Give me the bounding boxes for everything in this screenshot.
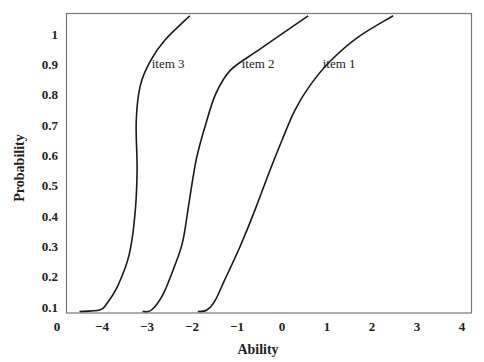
x-tick-label: −4 [95, 319, 109, 334]
curve-label-item-1: item 1 [323, 56, 356, 71]
curve-label-item-2: item 2 [242, 56, 275, 71]
y-tick-label: 0.8 [42, 87, 59, 102]
y-tick-label: 0.9 [42, 57, 59, 72]
x-tick-label: 0 [279, 319, 286, 334]
x-tick-label: −3 [140, 319, 154, 334]
x-tick-label: 4 [459, 319, 466, 334]
x-tick-label: 1 [324, 319, 331, 334]
x-tick-label: 2 [369, 319, 376, 334]
curve-labels: item 3item 2item 1 [152, 56, 356, 71]
x-axis-title: Ability [237, 342, 278, 357]
y-tick-label: 0.5 [42, 178, 59, 193]
curve-item-1 [198, 16, 393, 312]
y-tick-label: 0.6 [42, 148, 59, 163]
item-characteristic-curves-chart: 10.90.80.70.60.50.40.30.20.1 0−4−3−2−101… [0, 0, 484, 362]
x-tick-label: 0 [54, 319, 61, 334]
y-tick-label: 0.4 [42, 209, 59, 224]
y-tick-label: 1 [52, 27, 59, 42]
y-tick-label: 0.3 [42, 239, 59, 254]
x-tick-label: 3 [414, 319, 421, 334]
curve-label-item-3: item 3 [152, 56, 185, 71]
x-tick-label: −1 [230, 319, 244, 334]
x-tick-label: −2 [185, 319, 199, 334]
y-tick-label: 0.1 [42, 300, 58, 315]
x-axis-ticks: 0−4−3−2−101234 [54, 319, 466, 334]
y-tick-label: 0.2 [42, 269, 58, 284]
y-tick-label: 0.7 [42, 118, 59, 133]
y-axis-ticks: 10.90.80.70.60.50.40.30.20.1 [42, 27, 59, 315]
y-axis-title: Probability [12, 134, 27, 201]
